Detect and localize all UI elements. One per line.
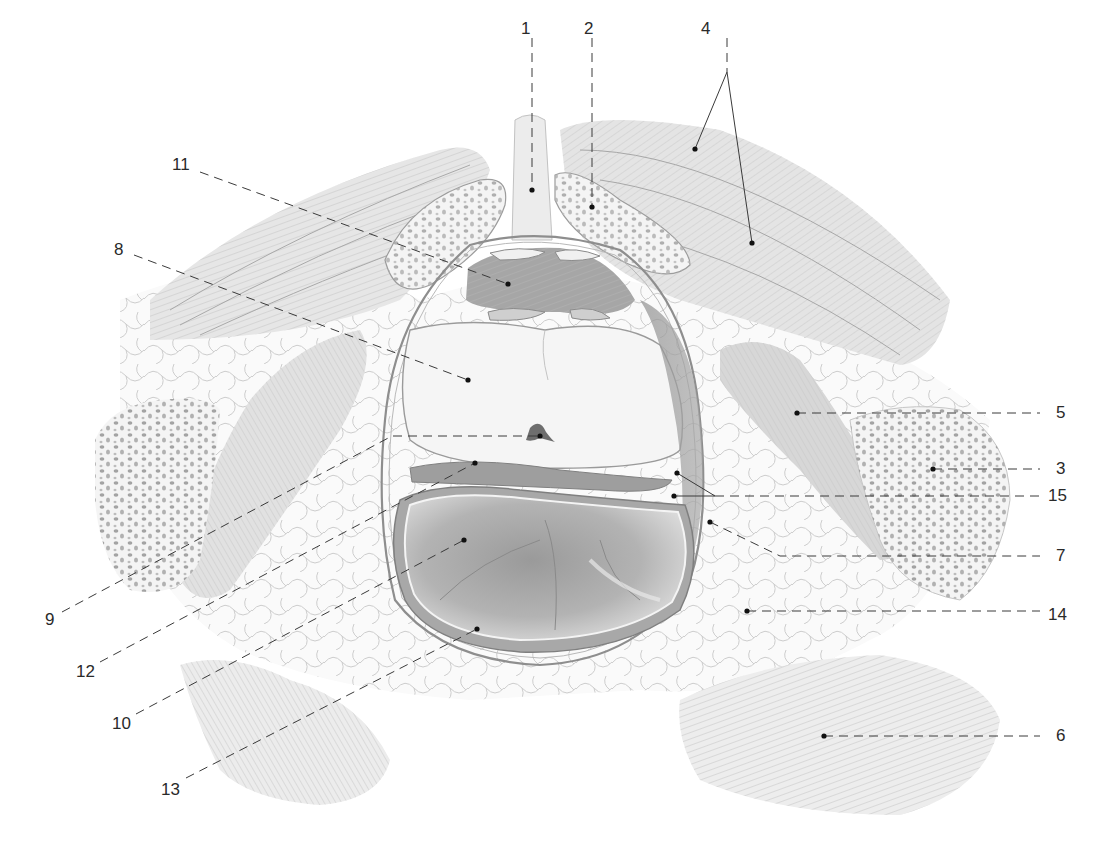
label-3: 3 (1056, 460, 1065, 477)
label-8: 8 (114, 241, 123, 258)
target-dot (749, 240, 754, 245)
target-dot (671, 493, 676, 498)
target-dot (589, 204, 594, 209)
label-11: 11 (172, 156, 190, 173)
target-dot (930, 466, 935, 471)
label-7: 7 (1056, 547, 1065, 564)
label-4: 4 (701, 20, 710, 37)
label-10: 10 (112, 715, 131, 732)
target-dot (794, 410, 799, 415)
anatomical-figure (0, 0, 1103, 854)
target-dot (744, 608, 749, 613)
rectal-lumen (405, 495, 686, 640)
target-dot (505, 281, 510, 286)
label-13: 13 (161, 781, 180, 798)
label-12: 12 (76, 663, 95, 680)
target-dot (472, 460, 477, 465)
target-dot (461, 537, 466, 542)
target-dot (674, 470, 679, 475)
label-1: 1 (521, 20, 530, 37)
target-dot (465, 377, 470, 382)
label-5: 5 (1056, 404, 1065, 421)
label-15: 15 (1048, 487, 1067, 504)
target-dot (821, 733, 826, 738)
label-2: 2 (584, 20, 593, 37)
label-6: 6 (1056, 727, 1065, 744)
label-14: 14 (1048, 606, 1067, 623)
target-dot (537, 433, 542, 438)
rectum (394, 487, 694, 653)
target-dot (529, 187, 534, 192)
label-9: 9 (45, 611, 54, 628)
prostate (403, 323, 683, 469)
target-dot (692, 146, 697, 151)
target-dot (474, 626, 479, 631)
target-dot (707, 519, 712, 524)
